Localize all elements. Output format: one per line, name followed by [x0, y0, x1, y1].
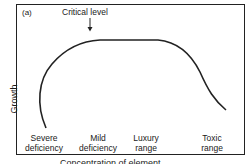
critical-level-label: Critical level — [62, 7, 108, 17]
panel-label: (a) — [22, 8, 32, 18]
zone-label-line1: Mild — [74, 133, 122, 143]
growth-curve-line — [40, 40, 226, 128]
zone-label-line1: Toxic — [194, 133, 230, 143]
y-axis-label: Growth — [9, 79, 19, 119]
zone-mild-deficiency: Mild deficiency — [74, 133, 122, 153]
x-axis-label: Concentration of element — [60, 158, 161, 164]
arrow-head-icon — [88, 27, 93, 32]
zone-label-line1: Luxury — [126, 133, 166, 143]
zone-label-line2: range — [126, 143, 166, 153]
zone-label-line2: deficiency — [74, 143, 122, 153]
zone-toxic-range: Toxic range — [194, 133, 230, 153]
zone-luxury-range: Luxury range — [126, 133, 166, 153]
zone-label-line1: Severe — [20, 133, 68, 143]
zone-label-line2: range — [194, 143, 230, 153]
zone-label-line2: deficiency — [20, 143, 68, 153]
zone-severe-deficiency: Severe deficiency — [20, 133, 68, 153]
